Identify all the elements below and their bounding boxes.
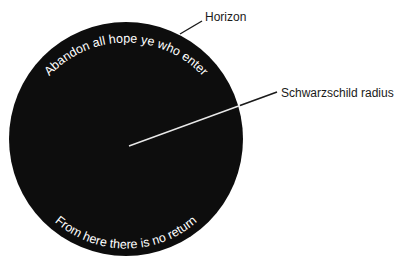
radius-leader-line	[240, 92, 277, 106]
horizon-leader-line	[180, 21, 202, 34]
diagram-canvas: Horizon Schwarzschild radius Abandon all…	[0, 0, 399, 267]
black-hole-diagram: Horizon Schwarzschild radius Abandon all…	[0, 0, 399, 267]
black-hole-circle	[9, 22, 243, 256]
schwarzschild-radius-label: Schwarzschild radius	[281, 86, 394, 100]
horizon-label: Horizon	[205, 10, 246, 24]
